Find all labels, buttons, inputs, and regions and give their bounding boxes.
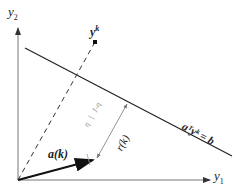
diagram-svg (0, 0, 243, 194)
vector-a-k-label: a(k) (48, 147, 68, 162)
y2-axis-label: y2 (8, 4, 18, 22)
tick-mark (87, 154, 90, 165)
point-yk-label: yk (90, 24, 99, 40)
vector-a-k (18, 160, 93, 180)
diagram-canvas: y2 y1 yk a(k) η | 1-η r(k) aᵀyᵏ = b (0, 0, 243, 194)
point-yk (93, 40, 97, 44)
y1-axis-label: y1 (214, 168, 224, 186)
